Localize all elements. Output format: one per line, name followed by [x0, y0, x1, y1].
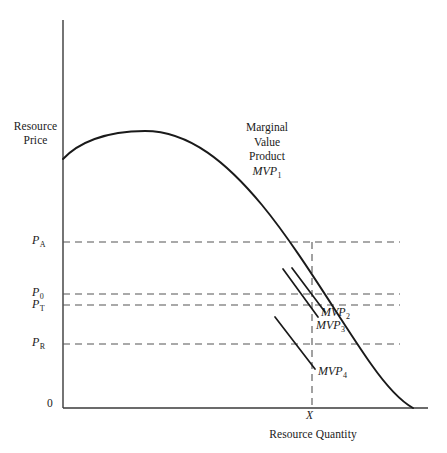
annotation-mvp2-base: MVP [321, 305, 346, 319]
x-axis-title: Resource Quantity [243, 428, 383, 442]
y-axis-title: Resource Price [8, 120, 63, 147]
annotation-mvp3-label: MVP3 [316, 318, 345, 332]
y-tick-label-pt: PT [32, 297, 45, 311]
annotation-mvp1-line-3: Product [222, 149, 312, 164]
annotation-mvp4-label: MVP4 [318, 364, 347, 378]
x-tick-label: X [306, 409, 313, 423]
annotation-mvp1-line-1: Marginal [222, 120, 312, 135]
annotation-mvp1-line-2: Value [222, 135, 312, 150]
annotation-mvp2-sub: 2 [346, 312, 350, 321]
annotation-mvp1-symbol-sub: 1 [277, 171, 281, 180]
annotation-mvp3-sub: 3 [341, 325, 345, 334]
y-tick-label-pa: PA [32, 233, 45, 247]
annotation-mvp1-note: Marginal Value Product MVP1 [222, 120, 312, 180]
y-tick-label-pa-sub: A [39, 240, 45, 249]
y-axis-title-line-1: Resource [8, 120, 63, 134]
y-tick-label-pr: PR [32, 335, 45, 349]
y-tick-label-pr-sub: R [39, 342, 45, 351]
y-tick-label-pt-sub: T [39, 304, 44, 313]
segment-mvp4 [275, 317, 315, 369]
annotation-mvp1-symbol-base: MVP [253, 164, 278, 178]
annotation-mvp4-base: MVP [318, 364, 343, 378]
annotation-mvp4-sub: 4 [343, 371, 347, 380]
origin-tick-label: 0 [47, 397, 53, 411]
annotation-mvp3-base: MVP [316, 318, 341, 332]
annotation-mvp1-symbol: MVP1 [222, 164, 312, 179]
y-axis-title-line-2: Price [8, 134, 63, 148]
chart-figure: Resource Price Resource Quantity 0 X PA … [0, 0, 447, 453]
chart-plot-area [0, 0, 447, 453]
